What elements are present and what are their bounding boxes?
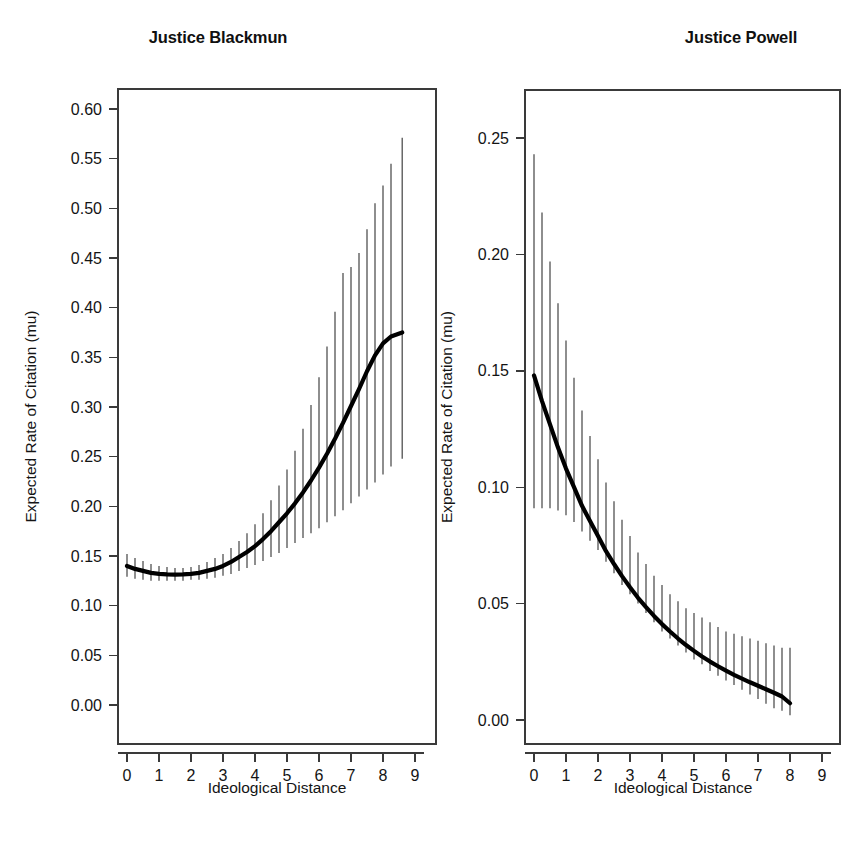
plot-canvas: 0.000.050.100.150.200.250.300.350.400.45… — [0, 0, 868, 862]
expected-rate-curve — [127, 333, 402, 575]
y-tick-label: 0.10 — [478, 479, 509, 496]
plot-area-blackmun: 0.000.050.100.150.200.250.300.350.400.45… — [22, 89, 436, 796]
x-tick-label: 7 — [347, 767, 356, 784]
y-tick-label: 0.35 — [71, 349, 102, 366]
y-tick-label: 0.00 — [71, 697, 102, 714]
y-tick-label: 0.25 — [478, 130, 509, 147]
y-axis-title: Expected Rate of Citation (mu) — [438, 311, 455, 523]
x-tick-label: 9 — [411, 767, 420, 784]
y-tick-label: 0.45 — [71, 250, 102, 267]
y-tick-label: 0.20 — [71, 498, 102, 515]
y-tick-label: 0.50 — [71, 200, 102, 217]
x-tick-label: 1 — [562, 767, 571, 784]
citation-rate-figure: Justice Blackmun Justice Powell 0.000.05… — [0, 0, 868, 862]
x-axis-title: Ideological Distance — [614, 779, 753, 796]
y-tick-label: 0.05 — [478, 595, 509, 612]
error-bars — [127, 138, 402, 581]
error-bars — [534, 154, 790, 715]
x-tick-label: 0 — [530, 767, 539, 784]
y-tick-label: 0.60 — [71, 101, 102, 118]
y-tick-label: 0.15 — [71, 548, 102, 565]
x-tick-label: 8 — [379, 767, 388, 784]
y-tick-label: 0.40 — [71, 299, 102, 316]
x-tick-label: 1 — [155, 767, 164, 784]
y-tick-label: 0.15 — [478, 362, 509, 379]
x-tick-label: 2 — [594, 767, 603, 784]
y-tick-label: 0.25 — [71, 448, 102, 465]
y-tick-label: 0.10 — [71, 597, 102, 614]
expected-rate-curve — [534, 375, 790, 703]
plot-area-powell: 0.000.050.100.150.200.250123456789Ideolo… — [438, 90, 840, 796]
x-tick-label: 2 — [187, 767, 196, 784]
y-tick-label: 0.20 — [478, 246, 509, 263]
y-tick-label: 0.30 — [71, 399, 102, 416]
x-tick-label: 0 — [123, 767, 132, 784]
y-tick-label: 0.00 — [478, 712, 509, 729]
x-tick-label: 7 — [754, 767, 763, 784]
x-tick-label: 8 — [786, 767, 795, 784]
x-tick-label: 9 — [818, 767, 827, 784]
y-axis-title: Expected Rate of Citation (mu) — [22, 311, 39, 523]
y-tick-label: 0.05 — [71, 647, 102, 664]
x-axis-title: Ideological Distance — [208, 779, 347, 796]
y-tick-label: 0.55 — [71, 150, 102, 167]
